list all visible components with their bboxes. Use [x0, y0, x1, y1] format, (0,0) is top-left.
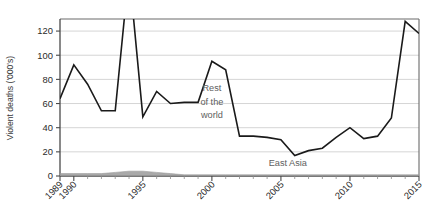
y-tick-label: 40 — [43, 122, 53, 133]
y-tick-label: 100 — [37, 50, 53, 61]
series-annotation: East Asia — [269, 158, 308, 168]
y-tick-label: 120 — [37, 25, 53, 36]
series-annotation: of the — [200, 97, 223, 107]
series-annotation: world — [200, 110, 223, 120]
y-tick-label: 0 — [48, 170, 53, 181]
y-tick-label: 60 — [43, 98, 53, 109]
y-axis-title-label: Violent deaths ('000's) — [5, 56, 15, 140]
y-axis-title: Violent deaths ('000's) — [5, 56, 15, 140]
y-tick-label: 80 — [43, 74, 53, 85]
series-annotation: Rest — [202, 83, 221, 93]
violent-deaths-chart: 020406080100120 198919901995200020052010… — [0, 0, 441, 224]
y-tick-label: 20 — [43, 146, 53, 157]
chart-canvas: 020406080100120 198919901995200020052010… — [0, 0, 441, 224]
